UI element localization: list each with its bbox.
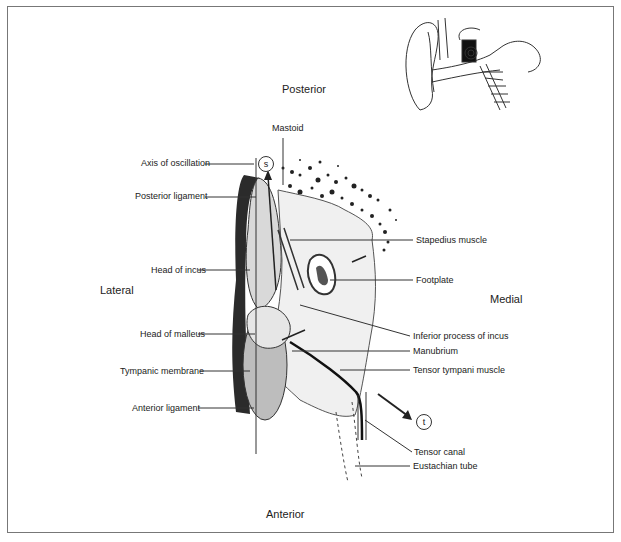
middle-ear-diagram bbox=[0, 0, 621, 542]
incus bbox=[246, 178, 281, 310]
label-tensor-canal: Tensor canal bbox=[414, 447, 465, 458]
label-eustachian-tube: Eustachian tube bbox=[413, 461, 478, 472]
marker-t: t bbox=[416, 414, 432, 430]
direction-lateral: Lateral bbox=[100, 284, 134, 296]
label-head-of-malleus: Head of malleus bbox=[140, 329, 205, 340]
label-manubrium: Manubrium bbox=[413, 346, 458, 357]
ear-cross-section-icon bbox=[406, 18, 540, 110]
label-inferior-process-of-incus: Inferior process of incus bbox=[413, 331, 509, 342]
label-posterior-ligament: Posterior ligament bbox=[135, 191, 208, 202]
label-head-of-incus: Head of incus bbox=[151, 265, 206, 276]
label-anterior-ligament: Anterior ligament bbox=[132, 403, 200, 414]
label-stapedius-muscle: Stapedius muscle bbox=[416, 235, 487, 246]
label-tympanic-membrane: Tympanic membrane bbox=[120, 366, 204, 377]
label-footplate: Footplate bbox=[416, 275, 454, 286]
direction-medial: Medial bbox=[490, 293, 522, 305]
label-tensor-tympani-muscle: Tensor tympani muscle bbox=[413, 365, 505, 376]
marker-s: s bbox=[258, 156, 274, 172]
direction-posterior: Posterior bbox=[282, 83, 326, 95]
label-axis-of-oscillation: Axis of oscillation bbox=[141, 158, 210, 169]
direction-anterior: Anterior bbox=[266, 508, 305, 520]
label-mastoid: Mastoid bbox=[272, 123, 304, 134]
